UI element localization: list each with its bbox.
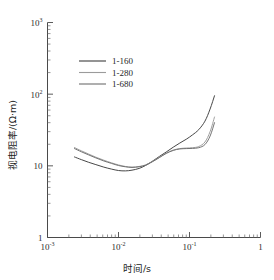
apparent-resistivity-log-log-chart: 110102103 10-310-210-11 1-1601-2801-680 … [0, 0, 274, 280]
chart-container: 110102103 10-310-210-11 1-1601-2801-680 … [0, 0, 274, 280]
x-tick-label: 1 [258, 242, 263, 252]
legend-label-1-280: 1-280 [112, 68, 133, 78]
x-axis-title: 时间/s [123, 263, 151, 274]
y-tick-label: 10 [34, 161, 44, 171]
legend-label-1-160: 1-160 [112, 56, 133, 66]
legend-label-1-680: 1-680 [112, 79, 133, 89]
y-axis-title: 视电阻率/(Ω·m) [7, 100, 18, 170]
